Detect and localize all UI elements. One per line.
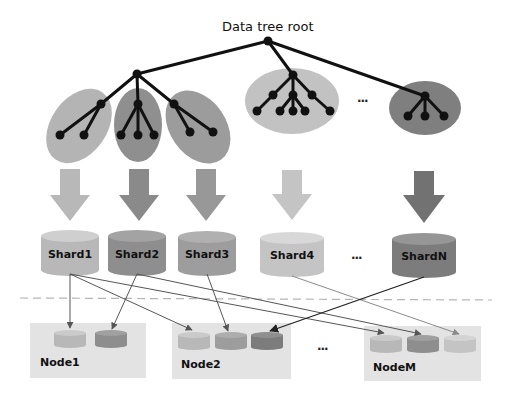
node-m-label: NodeM [373, 361, 416, 374]
diagram-title: Data tree root [222, 19, 314, 34]
shard-arrows [50, 169, 445, 223]
shard-3-label: Shard3 [174, 248, 240, 261]
node-1-box [30, 323, 146, 378]
root-node [264, 37, 273, 46]
arrow-down-icon [186, 169, 226, 221]
subtree-ellipsis: ... [357, 91, 368, 105]
sharding-diagram [0, 0, 510, 401]
shard-ellipsis: ... [351, 248, 362, 262]
arrow-down-icon [403, 171, 445, 223]
node-ellipsis: ... [317, 339, 328, 353]
subtree-ellipses [33, 68, 461, 176]
arrow-down-icon [272, 170, 312, 220]
arrow-down-icon [50, 169, 90, 221]
shard-n-label: ShardN [391, 250, 457, 263]
arrow-down-icon [119, 169, 159, 221]
shard-4-label: Shard4 [259, 249, 325, 262]
shard-2-label: Shard2 [104, 248, 170, 261]
subtree-1-ellipse [33, 76, 126, 175]
shard-1-label: Shard1 [37, 248, 103, 261]
subtree-3-ellipse [152, 78, 244, 176]
node-1-label: Node1 [40, 356, 80, 369]
node-2-label: Node2 [181, 358, 221, 371]
